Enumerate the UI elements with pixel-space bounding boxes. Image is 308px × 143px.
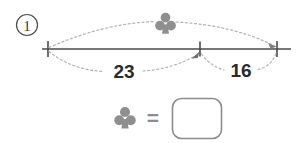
- guide-left-segment-arc-a: [49, 52, 104, 72]
- left-segment-length-label: 23: [113, 61, 134, 82]
- equals-sign: =: [147, 106, 159, 129]
- right-segment-length-label: 16: [230, 60, 251, 81]
- guide-right-segment-arc-b: [258, 53, 276, 70]
- question-number-badge: 1: [17, 15, 38, 36]
- answer-box[interactable]: [173, 99, 222, 139]
- guide-total-right-arc: [176, 22, 274, 46]
- arrowhead-left-segment: [192, 52, 200, 59]
- guide-total-left-arc: [49, 22, 155, 48]
- question-number-label: 1: [23, 18, 31, 34]
- guide-right-segment-arc-a: [202, 54, 225, 70]
- club-symbol-total-label: [155, 13, 176, 34]
- worksheet-canvas: 1 23 16 =: [0, 0, 308, 143]
- club-symbol-equation: [114, 107, 136, 129]
- guide-left-segment-arc-b: [143, 56, 195, 71]
- arrowhead-total-right: [268, 43, 277, 49]
- number-line-diagram: 1 23 16 =: [0, 0, 308, 143]
